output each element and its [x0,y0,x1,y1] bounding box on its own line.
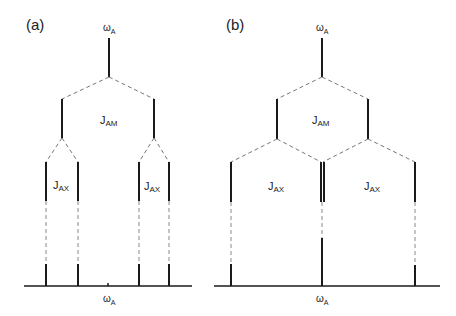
splitting-diagram [0,0,456,316]
panel-b-top-frequency-label: ωA [316,22,328,35]
panel-b-right-jax-label: JAX [364,180,380,194]
panel-a-top-frequency-label: ωA [103,22,115,35]
panel-a-left-jax-label: JAX [53,179,69,193]
panel-a-label: (a) [26,16,44,33]
panel-a-axis-frequency-label: ωA [103,293,115,306]
panel-a-jam-label: JAM [100,114,118,128]
panel-b-tree [214,38,440,286]
panel-b-left-jax-label: JAX [268,180,284,194]
panel-b-label: (b) [226,16,244,33]
panel-b-jam-label: JAM [312,114,330,128]
panel-b-axis-frequency-label: ωA [316,293,328,306]
panel-a-right-jax-label: JAX [144,180,160,194]
panel-a-tree [24,38,192,286]
